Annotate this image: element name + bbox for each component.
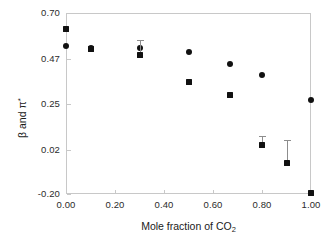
plot-area (66, 13, 311, 194)
data-point-beta-6 (284, 160, 290, 166)
x-tick-label-3: 0.60 (193, 199, 233, 210)
x-tick-label-2: 0.40 (144, 199, 184, 210)
data-point-beta-5 (259, 142, 265, 148)
x-tick-label-0: 0.00 (46, 199, 86, 210)
x-tick-label-1: 0.20 (95, 199, 135, 210)
y-tick-label-3: 0.02 (20, 144, 60, 155)
data-point-beta-3 (186, 79, 192, 85)
data-point-beta-2 (137, 52, 143, 58)
data-point-beta-1 (88, 46, 94, 52)
data-point-beta-7 (308, 190, 314, 196)
y-axis-title: β and π* (16, 98, 28, 138)
data-point-pistar-3 (186, 49, 192, 55)
y-tick-4 (67, 194, 71, 195)
data-point-pistar-6 (308, 97, 314, 103)
y-tick-3 (67, 150, 71, 151)
error-bar-cap (284, 140, 291, 141)
error-bar-cap (137, 40, 144, 41)
x-tick-2 (164, 190, 165, 194)
x-tick-3 (213, 190, 214, 194)
scatter-chart-figure: 0.000.200.400.600.801.000.700.470.250.02… (0, 0, 331, 240)
y-tick-2 (67, 104, 71, 105)
y-tick-1 (67, 59, 71, 60)
data-point-beta-0 (63, 26, 69, 32)
x-tick-1 (115, 190, 116, 194)
x-tick-label-4: 0.80 (242, 199, 282, 210)
x-tick-label-5: 1.00 (291, 199, 331, 210)
error-bar-cap (259, 136, 266, 137)
x-tick-4 (262, 190, 263, 194)
y-tick-label-4: -0.20 (20, 188, 60, 199)
data-point-beta-4 (227, 92, 233, 98)
y-tick-0 (67, 13, 71, 14)
y-tick-label-1: 0.47 (20, 53, 60, 64)
y-tick-label-0: 0.70 (20, 7, 60, 18)
x-axis-title: Mole fraction of CO2 (127, 220, 251, 232)
